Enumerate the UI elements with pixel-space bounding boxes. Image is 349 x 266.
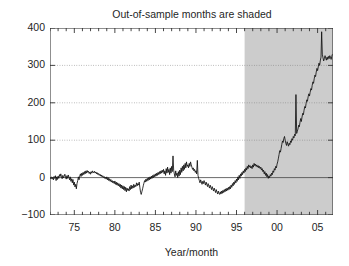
x-tick-label: 05 [303,221,333,233]
x-tick-label: 85 [140,221,170,233]
chart-root: Out-of-sample months are shaded −1000100… [0,0,349,266]
chart-title: Out-of-sample months are shaded [50,8,334,20]
x-tick-label: 00 [262,221,292,233]
y-tick-label: 100 [5,133,45,145]
y-tick-label: 200 [5,96,45,108]
y-tick-label: −100 [5,208,45,220]
x-tick-label: 75 [59,221,89,233]
plot-area: −1000100200300400 75808590950005 [50,28,333,215]
y-tick-label: 400 [5,21,45,33]
y-tick-label: 300 [5,58,45,70]
chart-canvas [50,28,333,215]
x-tick-label: 90 [181,221,211,233]
x-axis-title: Year/month [50,246,333,258]
x-tick-label: 80 [100,221,130,233]
y-tick-label: 0 [5,171,45,183]
x-tick-label: 95 [222,221,252,233]
out-of-sample-shaded-region [245,28,333,215]
